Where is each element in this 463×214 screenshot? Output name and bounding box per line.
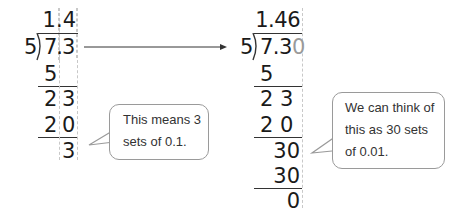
step-remainder: 30: [260, 139, 300, 163]
callout-bubble: We can think of this as 30 sets of 0.01.: [332, 92, 445, 169]
quotient: 1.46: [240, 8, 300, 32]
division-bar: [254, 33, 302, 34]
remainder: 0: [260, 189, 300, 213]
callout-text-line: sets of 0.1.: [123, 131, 208, 153]
division-bar: [38, 33, 78, 34]
guide-line: [77, 60, 78, 160]
callout-text-line: of 0.01.: [345, 141, 444, 163]
step-remainder: 2 3: [260, 87, 293, 111]
step-subtract: 5: [44, 62, 57, 86]
arrow-right-icon: [84, 43, 228, 51]
dividend: 7.3: [44, 35, 74, 59]
callout-bubble: This means 3 sets of 0.1.: [109, 104, 209, 160]
guide-line: [59, 60, 60, 160]
callout-text-line: this as 30 sets: [345, 119, 444, 141]
step-line: [254, 137, 302, 138]
dividend: 7.30: [260, 35, 305, 59]
appended-zero: 0: [292, 35, 305, 59]
callout-text-line: This means 3: [123, 109, 208, 131]
dividend-digits: 7.3: [260, 35, 292, 59]
remainder: 3: [62, 139, 75, 163]
step-line: [38, 137, 78, 138]
step-subtract: 2 0: [260, 113, 293, 137]
step-subtract: 5: [260, 62, 273, 86]
division-bracket-icon: [36, 33, 44, 61]
callout-text-line: We can think of: [345, 97, 444, 119]
division-bracket-icon: [252, 33, 260, 61]
step-subtract: 30: [260, 164, 300, 188]
quotient: 1.4: [30, 8, 76, 32]
